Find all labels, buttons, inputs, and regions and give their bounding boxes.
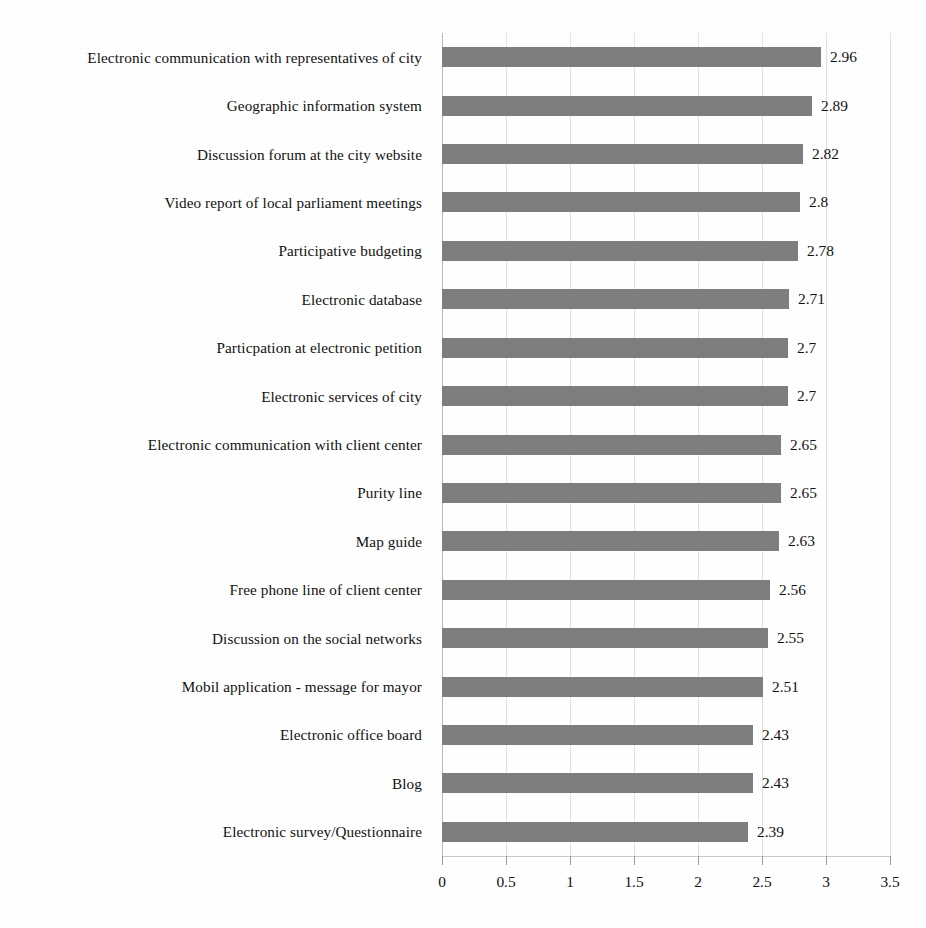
category-label: Blog (2, 774, 422, 793)
gridline (890, 33, 891, 856)
plot-area: 2.962.892.822.82.782.712.72.72.652.652.6… (442, 33, 890, 856)
category-label: Geographic information system (2, 96, 422, 115)
bar (442, 773, 753, 793)
bar-value-label: 2.71 (798, 289, 825, 309)
category-label: Electronic office board (2, 725, 422, 744)
category-label: Video report of local parliament meeting… (2, 193, 422, 212)
x-tick-mark (762, 856, 763, 865)
x-tick-label: 0 (438, 872, 446, 892)
bar (442, 338, 788, 358)
x-axis-rule (442, 856, 890, 857)
x-tick-mark (506, 856, 507, 865)
category-label: Discussion on the social networks (2, 629, 422, 648)
bar-value-label: 2.8 (809, 192, 828, 212)
category-label: Electronic communication with client cen… (2, 435, 422, 454)
bar (442, 677, 763, 697)
category-label: Electronic database (2, 290, 422, 309)
x-tick-label: 3 (822, 872, 830, 892)
bar-value-label: 2.96 (830, 47, 857, 67)
bar-value-label: 2.89 (821, 96, 848, 116)
bar-value-label: 2.39 (757, 822, 784, 842)
bar (442, 580, 770, 600)
bar-value-label: 2.56 (779, 580, 806, 600)
bar (442, 192, 800, 212)
x-tick-label: 2 (694, 872, 702, 892)
bar (442, 531, 779, 551)
category-axis-labels: Electronic communication with representa… (0, 33, 432, 856)
x-tick-mark (890, 856, 891, 865)
bar (442, 386, 788, 406)
bar-value-label: 2.43 (762, 725, 789, 745)
category-label: Electronic services of city (2, 387, 422, 406)
bar (442, 241, 798, 261)
x-tick-label: 1 (566, 872, 574, 892)
bar-chart-figure: Electronic communication with representa… (0, 0, 926, 928)
bar (442, 144, 803, 164)
x-tick-mark (698, 856, 699, 865)
category-label: Free phone line of client center (2, 580, 422, 599)
bar (442, 725, 753, 745)
bar-value-label: 2.65 (790, 483, 817, 503)
x-tick-mark (442, 856, 443, 865)
bar-value-label: 2.7 (797, 338, 816, 358)
bar (442, 289, 789, 309)
x-axis: 00.511.522.533.5 (442, 856, 890, 916)
bar-value-label: 2.78 (807, 241, 834, 261)
category-label: Map guide (2, 532, 422, 551)
bar (442, 822, 748, 842)
category-label: Participative budgeting (2, 241, 422, 260)
x-tick-label: 3.5 (880, 872, 899, 892)
category-label: Electronic survey/Questionnaire (2, 822, 422, 841)
x-tick-mark (634, 856, 635, 865)
bar (442, 435, 781, 455)
bar-value-label: 2.63 (788, 531, 815, 551)
bar-value-label: 2.82 (812, 144, 839, 164)
category-label: Discussion forum at the city website (2, 145, 422, 164)
x-tick-mark (570, 856, 571, 865)
bar-value-label: 2.7 (797, 386, 816, 406)
x-tick-label: 2.5 (752, 872, 771, 892)
bar (442, 96, 812, 116)
bar (442, 628, 768, 648)
x-tick-label: 1.5 (624, 872, 643, 892)
category-label: Particpation at electronic petition (2, 338, 422, 357)
bar-value-label: 2.55 (777, 628, 804, 648)
bar-value-label: 2.65 (790, 435, 817, 455)
category-label: Mobil application - message for mayor (2, 677, 422, 696)
x-tick-label: 0.5 (496, 872, 515, 892)
category-label: Purity line (2, 483, 422, 502)
bar (442, 483, 781, 503)
bar-value-label: 2.51 (772, 677, 799, 697)
x-tick-mark (826, 856, 827, 865)
category-label: Electronic communication with representa… (2, 48, 422, 67)
bar-value-label: 2.43 (762, 773, 789, 793)
bar (442, 47, 821, 67)
